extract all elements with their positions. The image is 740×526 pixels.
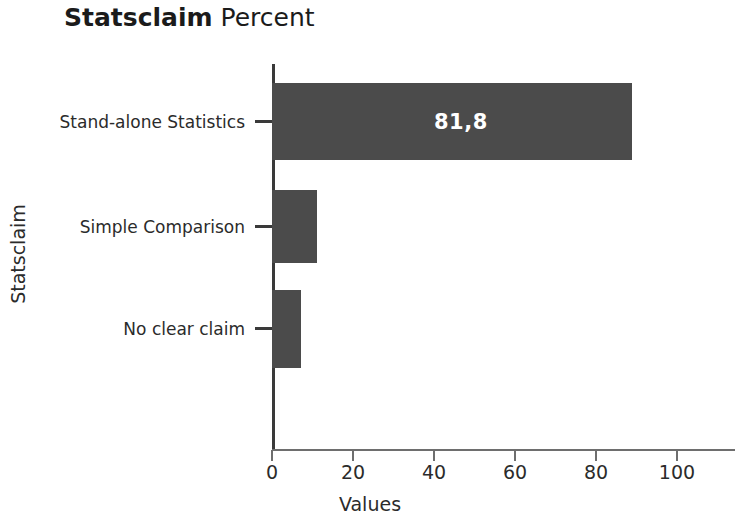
y-tick-label-1: Stand-alone Statistics bbox=[0, 112, 245, 132]
x-tick-label-100: 100 bbox=[659, 461, 695, 483]
bar-chart: Statsclaim Percent 81,8 Stand-alone Stat… bbox=[0, 0, 740, 526]
x-tick-label-20: 20 bbox=[341, 461, 365, 483]
x-tick-mark-80 bbox=[595, 450, 597, 461]
bar-value-label-1: 81,8 bbox=[434, 110, 488, 134]
bar-simple-comparison bbox=[272, 190, 317, 263]
x-tick-mark-100 bbox=[676, 450, 678, 461]
x-tick-label-40: 40 bbox=[422, 461, 446, 483]
y-axis-title: Statsclaim bbox=[7, 174, 29, 334]
x-tick-mark-20 bbox=[352, 450, 354, 461]
chart-title: Statsclaim Percent bbox=[64, 2, 315, 34]
x-tick-label-0: 0 bbox=[266, 461, 278, 483]
chart-title-regular: Percent bbox=[213, 3, 315, 32]
x-tick-label-80: 80 bbox=[584, 461, 608, 483]
x-tick-mark-0 bbox=[271, 450, 273, 461]
y-tick-label-2: Simple Comparison bbox=[0, 217, 245, 237]
y-tick-mark-1 bbox=[255, 120, 272, 123]
x-axis-line bbox=[272, 449, 735, 451]
y-tick-label-3: No clear claim bbox=[0, 319, 245, 339]
y-tick-mark-3 bbox=[255, 327, 272, 330]
x-tick-mark-40 bbox=[433, 450, 435, 461]
bar-no-clear-claim bbox=[272, 290, 301, 368]
y-tick-mark-2 bbox=[255, 225, 272, 228]
x-tick-label-60: 60 bbox=[503, 461, 527, 483]
x-axis-title: Values bbox=[0, 493, 740, 515]
x-tick-mark-60 bbox=[514, 450, 516, 461]
chart-title-bold: Statsclaim bbox=[64, 3, 213, 32]
